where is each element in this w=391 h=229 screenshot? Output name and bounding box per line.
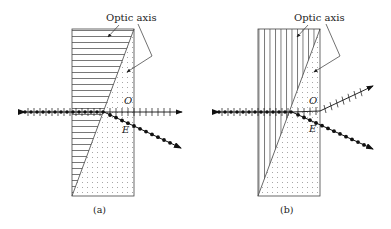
caption-b: (b) [280, 204, 294, 215]
optic-axis-label-a: Optic axis [106, 12, 157, 23]
extraordinary-ray-label-a: E [121, 124, 130, 135]
extraordinary-ray-label-b: E [308, 123, 317, 134]
ordinary-ray-label-b: O [309, 95, 317, 106]
ordinary-ray-label-a: O [124, 95, 132, 106]
caption-a: (a) [93, 204, 106, 215]
panel-a: Optic axis [18, 12, 182, 215]
polarizing-prism-diagram: Optic axis [0, 0, 391, 229]
optic-axis-label-b: Optic axis [294, 12, 345, 23]
panel-b: Optic axis [212, 12, 373, 215]
